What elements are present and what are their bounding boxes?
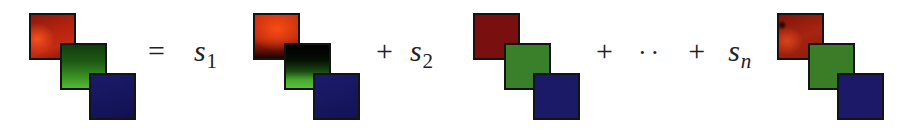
blue-channel-square — [533, 73, 580, 120]
blue-channel-square — [89, 73, 136, 120]
rgb-decomposition-figure: = s1 + s2 + ·· + sn — [0, 0, 907, 129]
s2-variable: s2 — [410, 34, 433, 67]
equals-sign: = — [148, 34, 165, 67]
image-original — [29, 0, 139, 129]
sn-variable: sn — [728, 34, 751, 67]
plus-sign: + — [688, 34, 705, 67]
image-component-1 — [253, 0, 363, 129]
equals-s1-term: = s1 — [148, 31, 217, 74]
plus-s2-term: + s2 — [376, 31, 433, 74]
blue-channel-square — [837, 73, 884, 120]
image-component-n — [473, 0, 583, 129]
blue-channel-square — [313, 73, 360, 120]
s1-variable: s1 — [194, 34, 217, 67]
ellipsis: ·· — [638, 38, 663, 67]
plus-sign: + — [596, 34, 613, 67]
image-reconstruction — [777, 0, 887, 129]
plus-sign: + — [376, 34, 393, 67]
plus-ellipsis-plus-sn-term: + ·· + sn — [596, 31, 751, 74]
